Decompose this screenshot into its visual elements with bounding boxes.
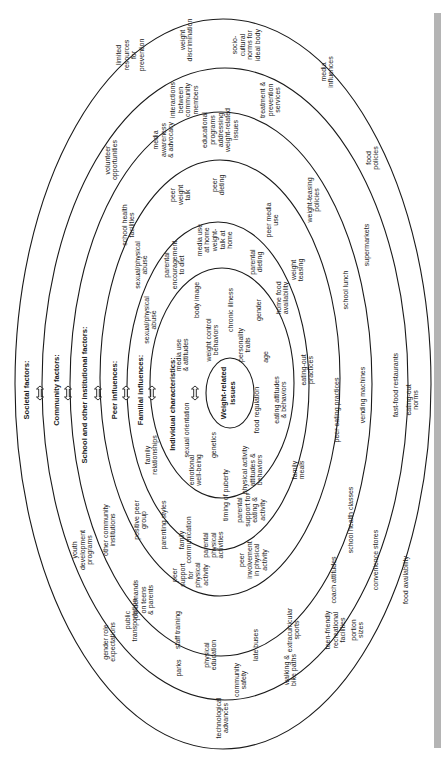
peer-factor-label-line: abuse: [141, 255, 148, 274]
community-factor-label-line: policies: [313, 188, 321, 212]
individual-factor-label-line: well-being: [195, 454, 203, 487]
familial-factor-label: familyrelationships: [144, 435, 160, 475]
familial-factor-label-line: availability: [282, 281, 290, 314]
community-factor-label-line: interactions: [169, 82, 176, 118]
school-factor-label-line: facilities: [128, 212, 135, 237]
familial-factor-label-line: media use: [196, 224, 203, 256]
community-factor-label: teen-friendlyrecreationalfacilities: [324, 610, 346, 649]
societal-factor-label-line: advances: [222, 703, 229, 733]
societal-factor-label: eating-outnorms: [405, 384, 420, 415]
societal-factor-label-line: prevention: [138, 39, 146, 72]
community-factor-label-line: recreational: [332, 611, 339, 648]
individual-factor-label: personalitytraits: [237, 328, 252, 362]
familial-factor-label-line: to diet: [178, 255, 185, 274]
school-factor-label: physicaleducation: [203, 640, 218, 670]
community-factor-label-line: volunteer: [104, 145, 111, 174]
familial-factor-label: parentalencouragementto diet: [163, 241, 185, 290]
peer-factor-label-line: for: [187, 570, 194, 579]
individual-factor-label-line: emotional: [188, 454, 195, 485]
ring-title-familial-line: Familial influences:: [136, 355, 145, 425]
community-factor-label-line: treatment &: [259, 82, 266, 119]
individual-factor-label-line: body image: [193, 282, 201, 318]
familial-factor-label-line: relationships: [151, 435, 159, 475]
individual-factor-label: emotionalwell-being: [188, 454, 204, 487]
diagram-canvas: Societal factors:Community factors:Schoo…: [0, 0, 447, 768]
societal-factor-label-line: fast-food restaurants: [392, 352, 399, 417]
societal-factor-label-line: limited: [115, 45, 122, 65]
center-node: Weight-relatedissues: [206, 358, 254, 428]
community-factor-label-line: opportunities: [111, 139, 119, 180]
familial-factor-label-line: communication: [185, 516, 192, 563]
societal-factor-label-line: food: [365, 151, 372, 165]
individual-factor-label: genetics: [210, 431, 218, 458]
school-factor-label: mediaawareness& advocacy: [152, 121, 175, 158]
individual-factor-label: eating attitudes& behaviors: [273, 376, 288, 424]
societal-factor-label-line: expectations: [109, 622, 117, 662]
societal-factor-label-line: media: [320, 62, 327, 81]
peer-factor-label-line: use: [272, 214, 279, 225]
community-factor-label: parks: [175, 659, 183, 677]
societal-factor-label-line: for: [130, 50, 137, 59]
societal-factor-label: gender roleexpectations: [102, 622, 118, 662]
school-factor-label: school healthfacilities: [121, 204, 136, 245]
familial-factor-label-line: parenting styles: [160, 500, 168, 550]
societal-factor-label-line: norms: [412, 390, 419, 410]
familial-factor-label: parentalsupport foreating &activity: [236, 493, 267, 527]
school-factor-label-line: late buses: [252, 629, 259, 661]
peer-factor-label: familymeals: [291, 460, 306, 479]
school-factor-label: job demandson teens& parents: [132, 579, 155, 621]
individual-factor-label: age: [262, 351, 270, 363]
individual-factor-label-line: timing of puberty: [222, 469, 230, 521]
peer-factor-label-line: practices: [307, 355, 315, 384]
societal-factor-label-line: discrimination: [186, 18, 193, 61]
ring-title-school: School and other institutional factors:: [80, 326, 89, 463]
school-factor-label-line: coach attitudes: [330, 556, 337, 604]
ring-title-community-line: Community factors:: [52, 354, 61, 426]
peer-factor-label-line: activity: [261, 549, 269, 571]
peer-factor-label: sexual/physicalabuse: [134, 241, 149, 289]
school-factor-label-line: media: [152, 130, 159, 149]
community-factor-label-line: facilities: [339, 617, 346, 642]
societal-factor-label: supermarkets: [363, 223, 371, 266]
familial-factor-label: parentaldieting: [249, 249, 265, 275]
factor-label-layer: limitedresourcesforpreventionweightdiscr…: [71, 18, 419, 738]
familial-factor-label-line: home food: [275, 281, 282, 314]
community-factor-label: volunteeropportunities: [104, 139, 120, 180]
school-factor-label: extracurricularsports: [286, 607, 302, 652]
peer-factor-label: peerweighttalk: [169, 185, 191, 206]
double-arrow-icon: [149, 386, 156, 400]
societal-factor-label-line: cultural: [239, 33, 246, 56]
societal-factor-label-line: norms for: [246, 30, 253, 60]
societal-factor-label: mediainfluences: [320, 56, 335, 88]
familial-factor-label-line: at home: [203, 227, 210, 252]
school-factor-label: weightteasing: [290, 259, 306, 282]
individual-factor-label-line: & attitudes: [182, 338, 189, 372]
societal-factor-label-line: food availability: [402, 556, 410, 604]
societal-factor-label-line: programs: [86, 535, 94, 565]
community-factor-label-line: vending machines: [359, 366, 367, 423]
ring-title-school-line: School and other institutional factors:: [80, 326, 89, 463]
familial-factor-label: parenting styles: [160, 500, 168, 550]
community-factor-label: treatment &preventionservices: [259, 82, 281, 119]
societal-factor-label-line: policies: [372, 146, 380, 170]
center-label: Weight-relatedissues: [219, 366, 237, 419]
societal-factor-label-line: ideal body: [254, 29, 262, 61]
school-factor-label-line: school health: [121, 204, 128, 245]
peer-factor-label-line: talk: [184, 189, 191, 200]
familial-factor-label: weight-talk athome: [211, 228, 233, 252]
individual-factor-label-line: behaviors: [256, 454, 263, 485]
peer-factor-label-line: involvement: [246, 541, 253, 578]
societal-factor-label-line: sizes: [357, 622, 364, 638]
community-factor-label: weight-teasingpolicies: [306, 177, 322, 223]
community-factor-label-line: school lunch: [342, 270, 349, 309]
societal-factor-label: socio-culturalnorms forideal body: [231, 29, 262, 61]
center-label-line: Weight-related: [219, 366, 228, 419]
individual-factor-label: timing of puberty: [222, 469, 230, 521]
familial-factor-label-line: abuse: [150, 310, 157, 329]
school-factor-label-line: school health classes: [347, 486, 354, 553]
societal-factor-label: food availability: [402, 556, 410, 604]
societal-factor-label: portionsizes: [350, 619, 365, 641]
school-factor-label-line: educational: [201, 112, 208, 148]
societal-factor-label-line: resources: [123, 39, 130, 70]
community-factor-label-line: parks: [175, 659, 183, 677]
